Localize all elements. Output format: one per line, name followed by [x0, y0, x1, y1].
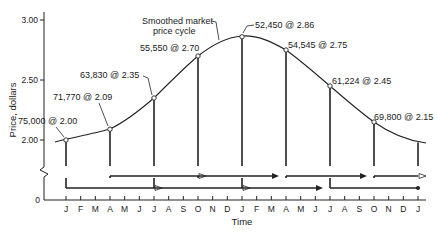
- y-tick-250: 2.50: [21, 75, 38, 85]
- y-tick-200: 2.00: [21, 135, 38, 145]
- price-cycle-chart: 3.00 2.50 2.00 0 Price, dollars JFMAMJJA…: [0, 0, 438, 233]
- x-axis-title: Time: [232, 216, 253, 227]
- point-label-1: 71,770 @ 2.09: [53, 92, 112, 102]
- x-tick-label: J: [416, 204, 420, 214]
- y-axis: [40, 12, 48, 200]
- point-marker: [240, 35, 244, 39]
- x-tick-label: D: [400, 204, 406, 214]
- x-tick-label: A: [342, 204, 348, 214]
- x-tick-label: M: [121, 204, 128, 214]
- x-tick-label: J: [64, 204, 68, 214]
- curve-label-line2: price cycle: [153, 26, 196, 36]
- y-axis-title: Price, dollars: [7, 82, 18, 137]
- point-marker: [64, 138, 68, 142]
- x-tick-label: F: [254, 204, 259, 214]
- x-tick-label: S: [181, 204, 187, 214]
- x-tick-label: O: [195, 204, 202, 214]
- point-label-5: 54,545 @ 2.75: [288, 40, 347, 50]
- x-tick-label: J: [240, 204, 244, 214]
- x-tick-label: F: [78, 204, 83, 214]
- arrow-dot-icon: [416, 186, 420, 190]
- x-tick-label: N: [386, 204, 392, 214]
- point-marker: [108, 127, 112, 131]
- point-label-6: 61,224 @ 2.45: [332, 76, 391, 86]
- leader-line-4: [243, 25, 254, 33]
- point-label-0: 75,000 @ 2.00: [18, 116, 77, 126]
- y-tick-300: 3.00: [21, 15, 38, 25]
- x-tick-label: J: [313, 204, 317, 214]
- x-tick-label: S: [357, 204, 363, 214]
- point-label-2: 63,830 @ 2.35: [80, 70, 139, 80]
- y-tick-0: 0: [35, 195, 40, 205]
- leader-line-1: [99, 103, 108, 126]
- x-tick-label: N: [210, 204, 216, 214]
- curve-label-line1: Smoothed market: [142, 16, 214, 26]
- x-tick-label: J: [152, 204, 156, 214]
- leader-line-0: [56, 127, 64, 137]
- x-tick-label: M: [92, 204, 99, 214]
- point-label-4: 52,450 @ 2.86: [255, 20, 314, 30]
- x-tick-label: A: [283, 204, 289, 214]
- x-tick-label: A: [107, 204, 113, 214]
- purchase-drop-lines: [66, 37, 426, 191]
- point-marker: [152, 96, 156, 100]
- point-marker: [196, 54, 200, 58]
- x-ticks: JFMAMJJASONDJFMAMJJASONDJ: [64, 196, 420, 214]
- x-tick-label: M: [268, 204, 275, 214]
- x-tick-label: J: [137, 204, 141, 214]
- point-label-3: 55,550 @ 2.70: [140, 43, 199, 53]
- arrow-solid-icon: [316, 185, 323, 191]
- leader-line-2: [143, 76, 152, 95]
- x-tick-label: J: [328, 204, 332, 214]
- point-label-7: 69,800 @ 2.15: [374, 112, 433, 122]
- arrow-open-icon: [419, 174, 426, 179]
- arrow-solid-icon: [360, 173, 367, 179]
- x-tick-label: D: [224, 204, 230, 214]
- x-tick-label: M: [297, 204, 304, 214]
- x-tick-label: O: [371, 204, 378, 214]
- x-tick-label: A: [166, 204, 172, 214]
- arrow-solid-icon: [272, 173, 279, 179]
